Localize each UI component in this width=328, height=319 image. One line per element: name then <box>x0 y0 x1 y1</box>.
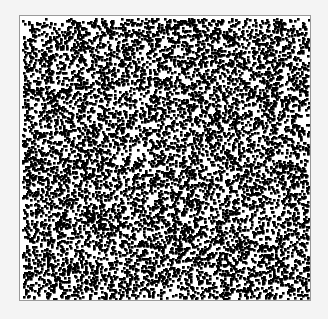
scatter-plot-area <box>19 15 311 301</box>
point-cloud <box>20 16 310 300</box>
